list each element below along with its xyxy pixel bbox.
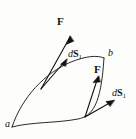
ds-label-right-subscript: 1	[123, 92, 127, 100]
upper-path-curve	[12, 56, 104, 127]
force-label-top: F	[57, 16, 64, 27]
force-vector-right-arrow	[85, 76, 100, 117]
force-vector-top-arrow	[41, 36, 74, 89]
ds-vector-top-arrow	[41, 59, 67, 89]
path-group	[12, 56, 104, 127]
ds-label-top-subscript: 1	[79, 53, 83, 61]
diagram-canvas	[0, 0, 136, 139]
vector-diagram-figure: F dS1 b F dS1 a	[0, 0, 136, 139]
point-label-a: a	[5, 119, 10, 129]
point-label-b: b	[108, 48, 113, 58]
ds-label-right: dS1	[112, 88, 126, 100]
ds-label-top: dS1	[68, 49, 82, 61]
force-label-right: F	[94, 64, 101, 75]
